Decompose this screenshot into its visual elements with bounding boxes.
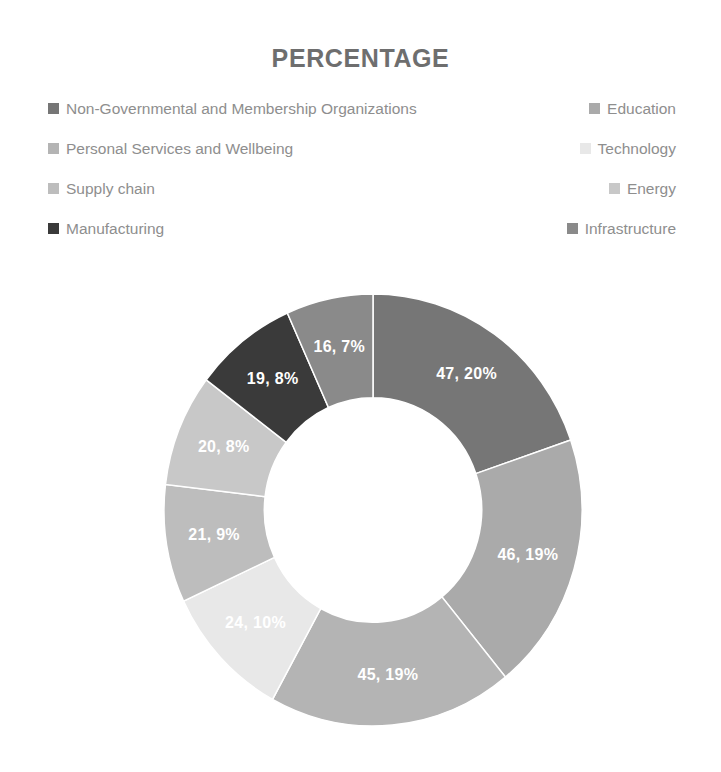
chart-legend: Non-Governmental and Membership Organiza… bbox=[48, 101, 676, 261]
legend-item-label: Education bbox=[607, 101, 676, 117]
legend-swatch-icon bbox=[48, 183, 59, 194]
page-title: PERCENTAGE bbox=[0, 44, 721, 73]
legend-item-supply-chain[interactable]: Supply chain bbox=[48, 181, 155, 197]
legend-item-label: Energy bbox=[627, 181, 676, 197]
legend-row: Personal Services and Wellbeing Technolo… bbox=[48, 141, 676, 181]
legend-swatch-icon bbox=[609, 183, 620, 194]
legend-swatch-icon bbox=[567, 223, 578, 234]
donut-slice-label: 16, 7% bbox=[313, 338, 365, 355]
legend-item-label: Manufacturing bbox=[66, 221, 164, 237]
legend-item-non-governmental-and-membership-organizations[interactable]: Non-Governmental and Membership Organiza… bbox=[48, 101, 417, 117]
legend-item-education[interactable]: Education bbox=[589, 101, 676, 117]
legend-swatch-icon bbox=[589, 103, 600, 114]
legend-row: Supply chain Energy bbox=[48, 181, 676, 221]
legend-item-infrastructure[interactable]: Infrastructure bbox=[567, 221, 676, 237]
legend-item-manufacturing[interactable]: Manufacturing bbox=[48, 221, 164, 237]
legend-swatch-icon bbox=[48, 143, 59, 154]
legend-item-personal-services-and-wellbeing[interactable]: Personal Services and Wellbeing bbox=[48, 141, 293, 157]
donut-slice-label: 21, 9% bbox=[188, 526, 240, 543]
legend-item-label: Personal Services and Wellbeing bbox=[66, 141, 293, 157]
legend-item-energy[interactable]: Energy bbox=[609, 181, 676, 197]
donut-slice[interactable] bbox=[373, 294, 571, 474]
legend-row: Non-Governmental and Membership Organiza… bbox=[48, 101, 676, 141]
legend-swatch-icon bbox=[580, 143, 591, 154]
donut-slice-label: 24, 10% bbox=[225, 614, 286, 631]
donut-slice-label: 46, 19% bbox=[497, 546, 558, 563]
chart-container: PERCENTAGE Non-Governmental and Membersh… bbox=[0, 0, 721, 772]
donut-chart-svg: 47, 20%46, 19%45, 19%24, 10%21, 9%20, 8%… bbox=[163, 293, 583, 727]
legend-swatch-icon bbox=[48, 223, 59, 234]
legend-item-label: Infrastructure bbox=[585, 221, 676, 237]
donut-slice-label: 19, 8% bbox=[247, 370, 299, 387]
legend-item-label: Supply chain bbox=[66, 181, 155, 197]
legend-item-label: Technology bbox=[598, 141, 676, 157]
donut-chart: 47, 20%46, 19%45, 19%24, 10%21, 9%20, 8%… bbox=[163, 293, 583, 727]
donut-slice-label: 47, 20% bbox=[436, 365, 497, 382]
legend-swatch-icon bbox=[48, 103, 59, 114]
donut-slice-label: 20, 8% bbox=[198, 438, 250, 455]
donut-slice-layer bbox=[164, 294, 582, 726]
legend-item-technology[interactable]: Technology bbox=[580, 141, 676, 157]
legend-item-label: Non-Governmental and Membership Organiza… bbox=[66, 101, 417, 117]
donut-slice-label: 45, 19% bbox=[357, 666, 418, 683]
legend-row: Manufacturing Infrastructure bbox=[48, 221, 676, 261]
